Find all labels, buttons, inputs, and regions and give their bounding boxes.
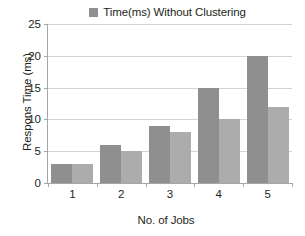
- bar-series-1: [100, 145, 121, 183]
- legend-swatch-icon: [89, 8, 98, 17]
- x-axis-tick: [243, 183, 244, 187]
- x-axis-title: No. of Jobs: [40, 214, 292, 226]
- bar-chart: Time(ms) Without Clustering Respons Time…: [0, 0, 305, 236]
- x-axis-tick-label: 4: [194, 188, 243, 201]
- x-axis-tick: [48, 183, 49, 187]
- x-axis-tick: [146, 183, 147, 187]
- bar-series-2: [121, 151, 142, 183]
- bar-series-2: [219, 119, 240, 183]
- legend-label: Time(ms) Without Clustering: [103, 6, 246, 18]
- y-axis-tick-label: 10: [28, 113, 41, 125]
- bar-series-1: [51, 164, 72, 183]
- x-axis-tick: [292, 183, 293, 187]
- bar-group: [146, 24, 195, 183]
- legend-entry: Time(ms) Without Clustering: [89, 6, 246, 18]
- x-axis-tick-label: 1: [48, 188, 97, 201]
- chart-legend: Time(ms) Without Clustering: [0, 3, 305, 21]
- x-axis-tick-label: 2: [97, 188, 146, 201]
- x-axis-tick: [194, 183, 195, 187]
- bar-series-2: [170, 132, 191, 183]
- x-axis-tick-label: 5: [243, 188, 292, 201]
- gridline: [48, 183, 292, 184]
- x-axis-tick: [97, 183, 98, 187]
- bar-group: [97, 24, 146, 183]
- bar-series-container: [48, 24, 292, 183]
- x-axis-tick-labels: 12345: [48, 188, 292, 201]
- y-axis-title: Respons Time (ms): [21, 22, 33, 182]
- bar-group: [194, 24, 243, 183]
- y-axis-tick-label: 20: [28, 50, 41, 62]
- plot-area-wrapper: 0510152025: [47, 24, 291, 183]
- y-axis-tick-label: 15: [28, 82, 41, 94]
- bar-group: [48, 24, 97, 183]
- bar-group: [243, 24, 292, 183]
- bar-series-2: [268, 107, 289, 183]
- y-axis-tick-label: 5: [35, 145, 41, 157]
- bar-series-1: [198, 88, 219, 183]
- x-axis-tick-label: 3: [146, 188, 195, 201]
- y-axis-tick-label: 25: [28, 18, 41, 30]
- bar-series-1: [247, 56, 268, 183]
- bar-series-1: [149, 126, 170, 183]
- bar-series-2: [72, 164, 93, 183]
- y-axis-tick-label: 0: [35, 177, 41, 189]
